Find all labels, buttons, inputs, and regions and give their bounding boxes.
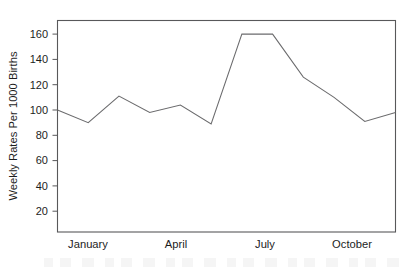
x-tick-label-january: January xyxy=(68,238,108,250)
y-tick-label-20: 20 xyxy=(36,205,48,217)
y-axis-ticks xyxy=(53,34,58,211)
screenshot-root: 20 40 60 80 100 120 140 160 Weekly Rates… xyxy=(0,0,412,270)
page-bleedthrough-artifact xyxy=(44,258,400,267)
x-tick-label-july: July xyxy=(255,238,275,250)
y-tick-label-120: 120 xyxy=(30,79,48,91)
y-axis-title: Weekly Rates Per 1000 Births xyxy=(7,51,19,200)
y-tick-label-160: 160 xyxy=(30,28,48,40)
line-chart-figure: 20 40 60 80 100 120 140 160 Weekly Rates… xyxy=(0,0,412,270)
y-tick-label-80: 80 xyxy=(36,129,48,141)
y-tick-label-140: 140 xyxy=(30,53,48,65)
y-tick-label-60: 60 xyxy=(36,154,48,166)
y-tick-label-100: 100 xyxy=(30,104,48,116)
y-tick-label-40: 40 xyxy=(36,180,48,192)
x-axis-tick-labels: January April July October xyxy=(68,238,372,250)
x-tick-label-april: April xyxy=(165,238,187,250)
chart-canvas: 20 40 60 80 100 120 140 160 Weekly Rates… xyxy=(0,0,412,270)
x-tick-label-october: October xyxy=(332,238,372,250)
y-axis-tick-labels: 20 40 60 80 100 120 140 160 xyxy=(30,28,48,217)
plot-area-frame xyxy=(58,21,396,233)
data-series-line xyxy=(58,34,396,124)
